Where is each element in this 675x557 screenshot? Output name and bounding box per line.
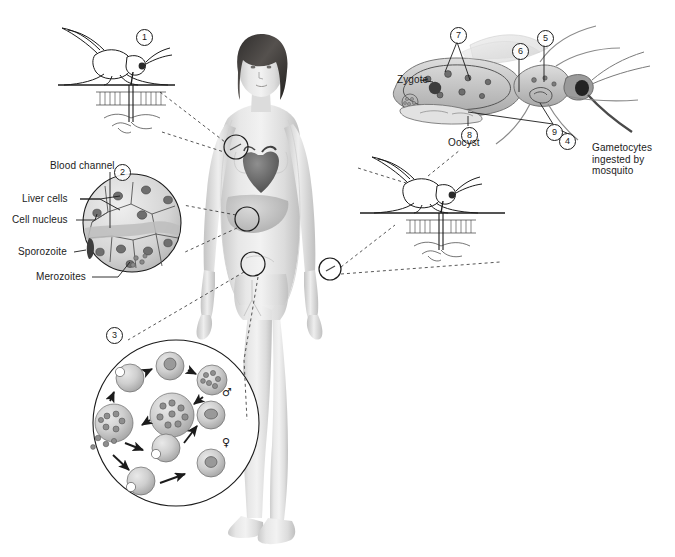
stage-number-7: 7 bbox=[450, 27, 467, 44]
mosquito-injecting-sporozoites bbox=[58, 28, 175, 133]
label-sporozoite: Sporozoite bbox=[18, 246, 67, 258]
leader-mosquito1-body bbox=[160, 92, 225, 152]
stage-number-2: 2 bbox=[114, 164, 131, 181]
mosquito-ingesting-gametocytes bbox=[360, 157, 505, 261]
stage-number-3: 3 bbox=[106, 327, 123, 344]
liver-cells-inset bbox=[83, 174, 181, 272]
female-gametocyte-symbol: ♀ bbox=[222, 437, 230, 448]
malaria-life-cycle-figure: 1 2 3 4 5 6 7 8 9 Blood channel Liver ce… bbox=[0, 0, 675, 557]
stage-number-9: 9 bbox=[546, 124, 563, 141]
leader-arm-mosquito bbox=[341, 150, 500, 274]
diagram-artwork bbox=[0, 0, 675, 557]
label-cell-nucleus: Cell nucleus bbox=[12, 214, 68, 226]
stage-number-1: 1 bbox=[136, 29, 153, 46]
erythrocytic-cycle-inset bbox=[91, 340, 259, 506]
label-gametocytes-ingested: Gametocytes ingested by mosquito bbox=[592, 142, 652, 177]
label-merozoites: Merozoites bbox=[36, 271, 86, 283]
stage-number-5: 5 bbox=[537, 30, 554, 47]
label-blood-channel: Blood channel bbox=[50, 160, 115, 172]
label-oocyst: Oocyst bbox=[448, 137, 480, 149]
stage-number-6: 6 bbox=[512, 43, 529, 60]
male-gametocyte-symbol: ♂ bbox=[222, 387, 232, 398]
label-liver-cells: Liver cells bbox=[22, 193, 68, 205]
label-zygote: Zygote bbox=[397, 74, 428, 86]
